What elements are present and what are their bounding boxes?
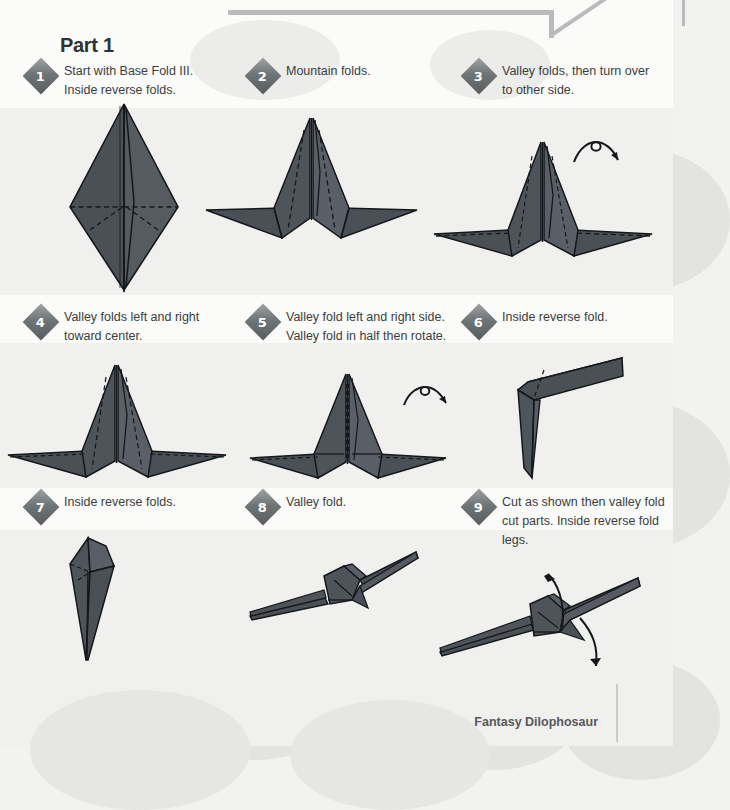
step-instruction-8: Valley fold. [286, 493, 436, 512]
figure-step-9 [438, 556, 670, 678]
step-instruction-5: Valley fold left and right side. Valley … [286, 308, 452, 346]
step-number-6: 6 [474, 314, 483, 329]
step-instruction-7: Inside reverse folds. [64, 493, 214, 512]
step-number-badge-9: 9 [461, 489, 498, 526]
turnover-arrow-icon-step-5 [402, 385, 448, 409]
step-number-9: 9 [474, 499, 483, 514]
figure-step-7 [56, 532, 148, 664]
figure-step-6 [492, 356, 624, 486]
step-instruction-1: Start with Base Fold III. Inside reverse… [64, 62, 224, 100]
step-instruction-3: Valley folds, then turn over to other si… [502, 62, 662, 100]
step-instruction-2: Mountain folds. [286, 62, 436, 81]
figure-step-3 [428, 140, 658, 260]
step-instruction-6: Inside reverse fold. [502, 308, 652, 327]
figure-step-1 [62, 102, 192, 292]
step-number-5: 5 [258, 314, 267, 329]
page-title: Part 1 [60, 34, 114, 57]
figure-step-2 [204, 112, 419, 247]
step-instruction-4: Valley folds left and right toward cente… [64, 308, 224, 346]
step-number-badge-3: 3 [461, 58, 498, 95]
step-number-2: 2 [258, 68, 267, 83]
figure-step-8 [248, 542, 460, 654]
step-number-badge-6: 6 [461, 304, 498, 341]
footer-divider [616, 684, 618, 742]
step-number-badge-4: 4 [23, 304, 60, 341]
turnover-arrow-icon-step-3 [572, 140, 620, 166]
footer-caption: Fantasy Dilophosaur [474, 715, 598, 729]
step-number-1: 1 [36, 68, 45, 83]
step-number-3: 3 [474, 68, 483, 83]
step-number-4: 4 [36, 314, 45, 329]
step-number-badge-1: 1 [23, 58, 60, 95]
step-number-badge-8: 8 [245, 489, 282, 526]
step-number-badge-2: 2 [245, 58, 282, 95]
step-number-7: 7 [36, 499, 45, 514]
step-number-badge-7: 7 [23, 489, 60, 526]
step-instruction-9: Cut as shown then valley fold cut parts.… [502, 493, 668, 550]
figure-step-4 [6, 363, 230, 483]
step-number-8: 8 [258, 499, 267, 514]
step-number-badge-5: 5 [245, 304, 282, 341]
